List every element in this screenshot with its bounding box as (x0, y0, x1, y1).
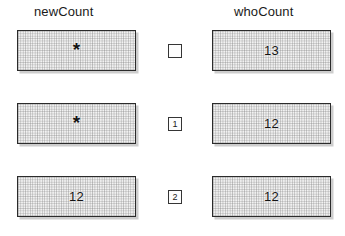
step-marker-row3[interactable]: 2 (168, 190, 182, 204)
value-box-newcount-row1[interactable]: * (17, 30, 136, 71)
step-marker-label: 2 (172, 193, 177, 202)
value-box-whocount-row1[interactable]: 13 (212, 30, 331, 71)
value-text: * (73, 40, 81, 59)
value-box-whocount-row2[interactable]: 12 (212, 103, 331, 144)
step-marker-row1[interactable] (168, 44, 182, 58)
step-marker-label: 1 (172, 120, 177, 129)
column-header-newcount: newCount (34, 4, 93, 19)
value-text: 12 (264, 117, 279, 130)
value-text: 12 (264, 190, 279, 203)
value-text: 13 (264, 44, 279, 57)
value-text: 12 (69, 190, 84, 203)
value-text: * (73, 113, 81, 132)
column-header-whocount: whoCount (234, 4, 293, 19)
variable-state-diagram: newCount whoCount * 13 * 1 12 12 2 12 (0, 0, 345, 236)
value-box-whocount-row3[interactable]: 12 (212, 176, 331, 217)
step-marker-row2[interactable]: 1 (168, 117, 182, 131)
value-box-newcount-row3[interactable]: 12 (17, 176, 136, 217)
value-box-newcount-row2[interactable]: * (17, 103, 136, 144)
